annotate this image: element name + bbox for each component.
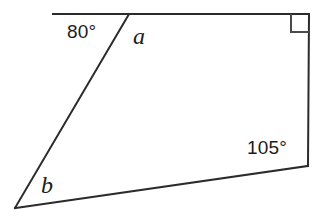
- bottom-edge: [15, 166, 308, 208]
- angle-label-a: a: [133, 24, 145, 48]
- angle-label-80: 80°: [67, 22, 96, 41]
- left-edge: [15, 14, 129, 208]
- angle-label-b: b: [41, 173, 53, 197]
- right-edge: [308, 14, 309, 166]
- angle-label-105: 105°: [247, 138, 287, 157]
- right-angle-marker-icon: [291, 14, 309, 32]
- geometry-figure: 80° 105° a b: [0, 0, 328, 218]
